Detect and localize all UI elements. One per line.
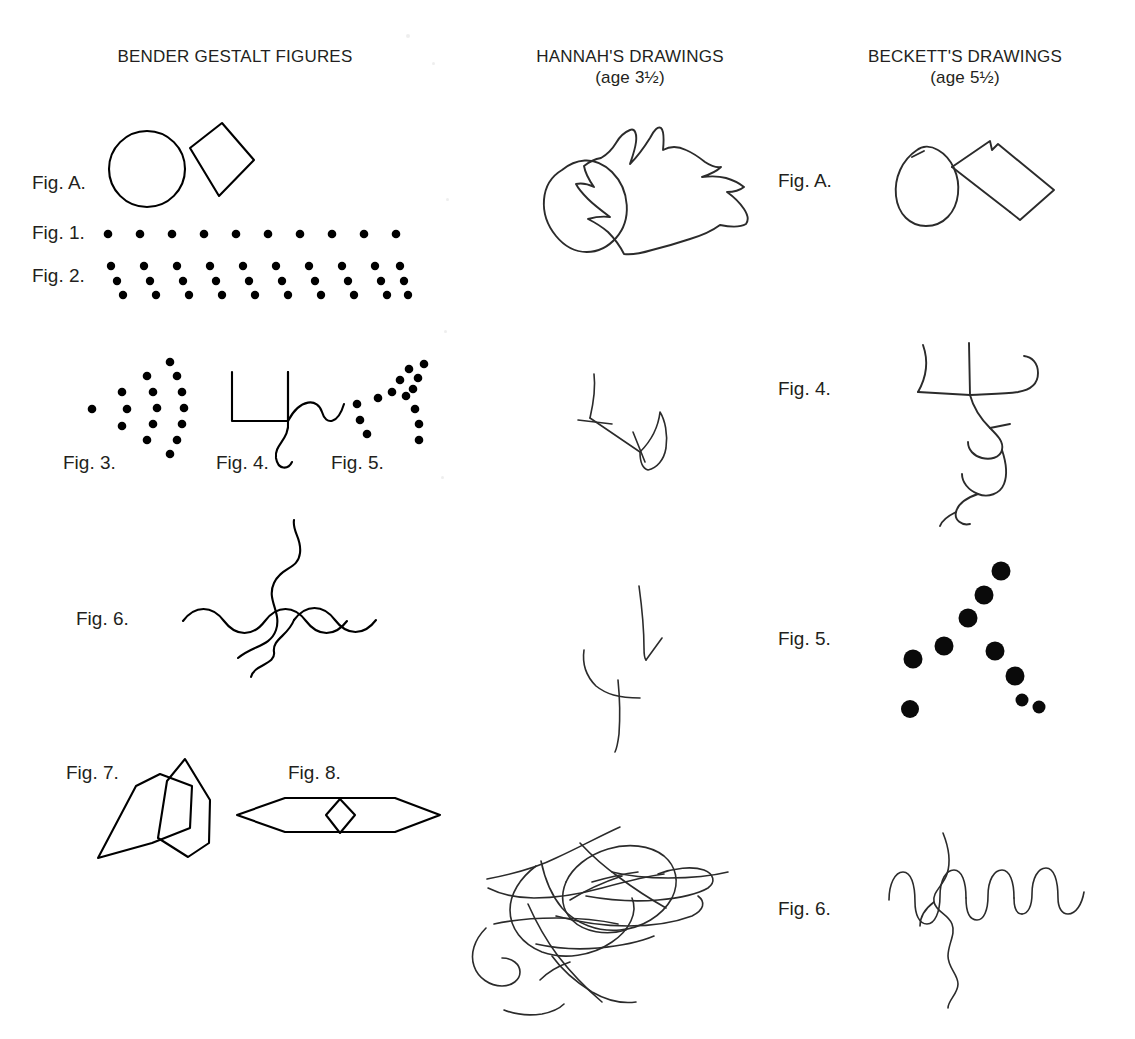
column-subtitle-beckett: (age 5½) <box>800 67 1130 88</box>
scan-speckle <box>446 198 449 201</box>
figure-sheet: BENDER GESTALT FIGURES HANNAH'S DRAWINGS… <box>0 0 1135 1039</box>
bender-label-fig-8: Fig. 8. <box>288 762 341 784</box>
bender-figure-5-drawing <box>353 360 429 445</box>
bender-label-fig-a: Fig. A. <box>32 172 86 194</box>
beckett-figure-6-drawing <box>889 833 1084 1008</box>
beckett-figure-5-drawing <box>901 562 1046 719</box>
bender-label-fig-1: Fig. 1. <box>32 222 85 244</box>
bender-label-fig-2: Fig. 2. <box>32 265 85 287</box>
bender-figure-3-drawing <box>88 358 189 459</box>
column-header-beckett: BECKETT'S DRAWINGS (age 5½) <box>800 46 1130 89</box>
column-header-bender: BENDER GESTALT FIGURES <box>20 46 450 67</box>
beckett-label-fig-6: Fig. 6. <box>778 898 831 920</box>
bender-label-fig-3: Fig. 3. <box>63 452 116 474</box>
column-header-hannah: HANNAH'S DRAWINGS (age 3½) <box>460 46 800 89</box>
hannah-figure-5-drawing <box>584 586 663 752</box>
bender-figure-8-drawing <box>237 798 440 833</box>
column-title-beckett: BECKETT'S DRAWINGS <box>868 47 1062 66</box>
beckett-figure-4-drawing <box>918 343 1038 526</box>
hannah-figure-a-drawing <box>544 127 748 254</box>
bender-figure-a-drawing <box>109 123 254 207</box>
column-subtitle-hannah: (age 3½) <box>460 67 800 88</box>
scan-speckle <box>441 476 444 479</box>
bender-label-fig-6: Fig. 6. <box>76 608 129 630</box>
beckett-label-fig-a: Fig. A. <box>778 170 832 192</box>
column-title-hannah: HANNAH'S DRAWINGS <box>536 47 723 66</box>
bender-label-fig-5: Fig. 5. <box>331 452 384 474</box>
bender-figure-1-drawing <box>104 230 401 239</box>
beckett-label-fig-5: Fig. 5. <box>778 628 831 650</box>
beckett-figure-a-drawing <box>896 141 1054 226</box>
column-title-bender: BENDER GESTALT FIGURES <box>118 47 353 66</box>
bender-label-fig-4: Fig. 4. <box>216 452 269 474</box>
hannah-figure-6-drawing <box>473 827 729 1015</box>
scan-speckle <box>406 34 410 38</box>
scan-speckle <box>432 62 435 65</box>
hannah-figure-4-drawing <box>578 374 667 470</box>
bender-figure-6-drawing <box>183 520 376 677</box>
bender-label-fig-7: Fig. 7. <box>66 762 119 784</box>
scan-speckle <box>444 330 447 333</box>
bender-figure-2-drawing <box>107 262 412 299</box>
beckett-label-fig-4: Fig. 4. <box>778 378 831 400</box>
